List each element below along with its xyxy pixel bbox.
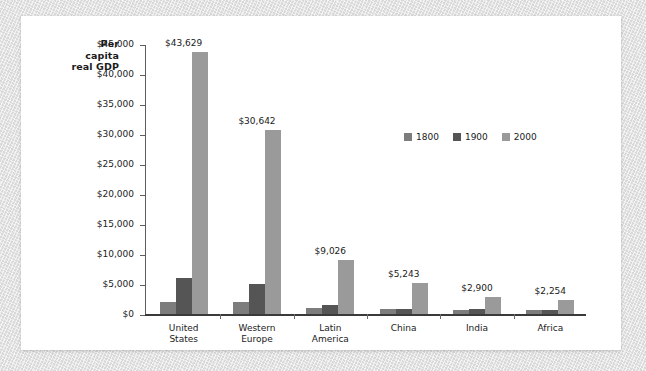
y-axis-tick-label: $25,000: [97, 159, 134, 169]
screenshot-page: Per capita real GDP $45,000$40,000$35,00…: [0, 0, 646, 371]
bar-1800[interactable]: [160, 302, 176, 314]
bar-group-bars: [147, 44, 220, 314]
x-axis-line: [145, 314, 586, 316]
x-axis-category-label-line: Europe: [239, 334, 276, 345]
bar-2000[interactable]: [558, 300, 574, 314]
x-axis-category-label-line: United: [169, 323, 199, 334]
bar-1900[interactable]: [542, 310, 558, 314]
legend-item-2000[interactable]: 2000: [502, 132, 537, 142]
legend-item-1800[interactable]: 1800: [404, 132, 439, 142]
y-axis-tick-label: $45,000: [97, 39, 134, 49]
bar-1900[interactable]: [469, 309, 485, 314]
y-axis-tick-mark: [140, 135, 145, 136]
bar-value-label: $30,642: [238, 116, 275, 126]
y-axis-tick-label: $0: [123, 309, 134, 319]
x-axis-category-label: UnitedStates: [169, 323, 199, 345]
bar-group: $2,254Africa: [514, 44, 587, 314]
x-axis-tick-mark: [220, 314, 221, 319]
x-axis-category-label-line: Africa: [537, 323, 563, 334]
y-axis-tick-label: $20,000: [97, 189, 134, 199]
chart-legend: 180019002000: [404, 132, 537, 142]
x-axis-category-label-line: States: [169, 334, 199, 345]
x-axis-tick-mark: [440, 314, 441, 319]
bar-2000[interactable]: [338, 260, 354, 314]
x-axis-category-label-line: Latin: [312, 323, 349, 334]
x-axis-category-label-line: India: [466, 323, 488, 334]
y-axis-tick-mark: [140, 195, 145, 196]
bar-value-label: $9,026: [315, 246, 347, 256]
bar-2000[interactable]: [485, 297, 501, 314]
y-axis-tick-mark: [140, 225, 145, 226]
x-axis-category-label-line: China: [391, 323, 417, 334]
bar-group: $43,629UnitedStates: [147, 44, 220, 314]
legend-swatch-icon: [404, 133, 412, 141]
bar-1800[interactable]: [233, 302, 249, 314]
y-axis-tick-mark: [140, 45, 145, 46]
x-axis-category-label: WesternEurope: [239, 323, 276, 345]
y-axis-line: [145, 45, 146, 315]
chart-panel: Per capita real GDP $45,000$40,000$35,00…: [21, 16, 621, 350]
bar-1900[interactable]: [322, 305, 338, 314]
y-axis-tick-label: $5,000: [103, 279, 135, 289]
y-axis-tick-label: $35,000: [97, 99, 134, 109]
x-axis-category-label: China: [391, 323, 417, 334]
bar-group: $9,026LatinAmerica: [294, 44, 367, 314]
x-axis-category-label-line: America: [312, 334, 349, 345]
bar-2000[interactable]: [192, 52, 208, 314]
bar-1900[interactable]: [176, 278, 192, 314]
plot-area: $45,000$40,000$35,000$30,000$25,000$20,0…: [147, 45, 587, 315]
bar-value-label: $2,254: [535, 286, 567, 296]
y-axis-tick-mark: [140, 255, 145, 256]
y-axis-tick-mark: [140, 285, 145, 286]
bar-2000[interactable]: [265, 130, 281, 314]
y-axis-tick-mark: [140, 315, 145, 316]
legend-item-1900[interactable]: 1900: [453, 132, 488, 142]
x-axis-tick-mark: [514, 314, 515, 319]
legend-label: 2000: [514, 132, 537, 142]
x-axis-category-label-line: Western: [239, 323, 276, 334]
x-axis-tick-mark: [294, 314, 295, 319]
bar-value-label: $43,629: [165, 38, 202, 48]
bar-1800[interactable]: [453, 310, 469, 314]
bar-group-bars: [294, 44, 367, 314]
y-axis-title-line-2: capita: [49, 50, 119, 62]
bar-group: $2,900India: [440, 44, 513, 314]
y-axis-tick-mark: [140, 75, 145, 76]
bar-group-bars: [514, 44, 587, 314]
legend-swatch-icon: [502, 133, 510, 141]
bar-1900[interactable]: [396, 309, 412, 314]
legend-label: 1800: [416, 132, 439, 142]
y-axis-tick-label: $30,000: [97, 129, 134, 139]
x-axis-category-label: Africa: [537, 323, 563, 334]
bar-1800[interactable]: [526, 310, 542, 314]
bar-value-label: $5,243: [388, 269, 420, 279]
bar-group: $30,642WesternEurope: [220, 44, 293, 314]
bar-1800[interactable]: [380, 309, 396, 314]
bar-value-label: $2,900: [461, 283, 493, 293]
x-axis-category-label: LatinAmerica: [312, 323, 349, 345]
bar-1900[interactable]: [249, 284, 265, 314]
legend-label: 1900: [465, 132, 488, 142]
bar-1800[interactable]: [306, 308, 322, 314]
bar-group-bars: [440, 44, 513, 314]
y-axis-tick-mark: [140, 105, 145, 106]
bar-2000[interactable]: [412, 283, 428, 314]
legend-swatch-icon: [453, 133, 461, 141]
bar-group-bars: [220, 44, 293, 314]
y-axis-tick-mark: [140, 165, 145, 166]
y-axis-tick-label: $40,000: [97, 69, 134, 79]
x-axis-tick-mark: [367, 314, 368, 319]
x-axis-category-label: India: [466, 323, 488, 334]
bar-group: $5,243China: [367, 44, 440, 314]
y-axis-tick-label: $15,000: [97, 219, 134, 229]
y-axis-tick-label: $10,000: [97, 249, 134, 259]
